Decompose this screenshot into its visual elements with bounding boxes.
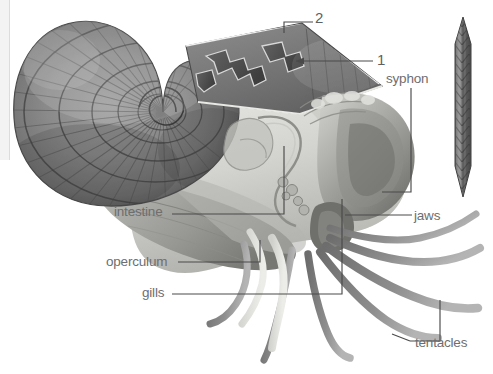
page-edge-band <box>0 0 10 160</box>
label-callout-one: 1 <box>377 52 385 67</box>
label-intestine: intestine <box>114 205 162 219</box>
ammonite-illustration <box>0 0 493 374</box>
anatomy-figure: intestine operculum gills syphon jaws te… <box>0 0 493 374</box>
shell-edge-on-view <box>450 10 480 205</box>
label-callout-two: 2 <box>315 10 323 25</box>
label-syphon: syphon <box>386 72 428 86</box>
label-gills: gills <box>142 286 164 300</box>
label-jaws: jaws <box>414 209 440 223</box>
label-operculum: operculum <box>106 255 167 269</box>
label-tentacles: tentacles <box>415 336 467 350</box>
